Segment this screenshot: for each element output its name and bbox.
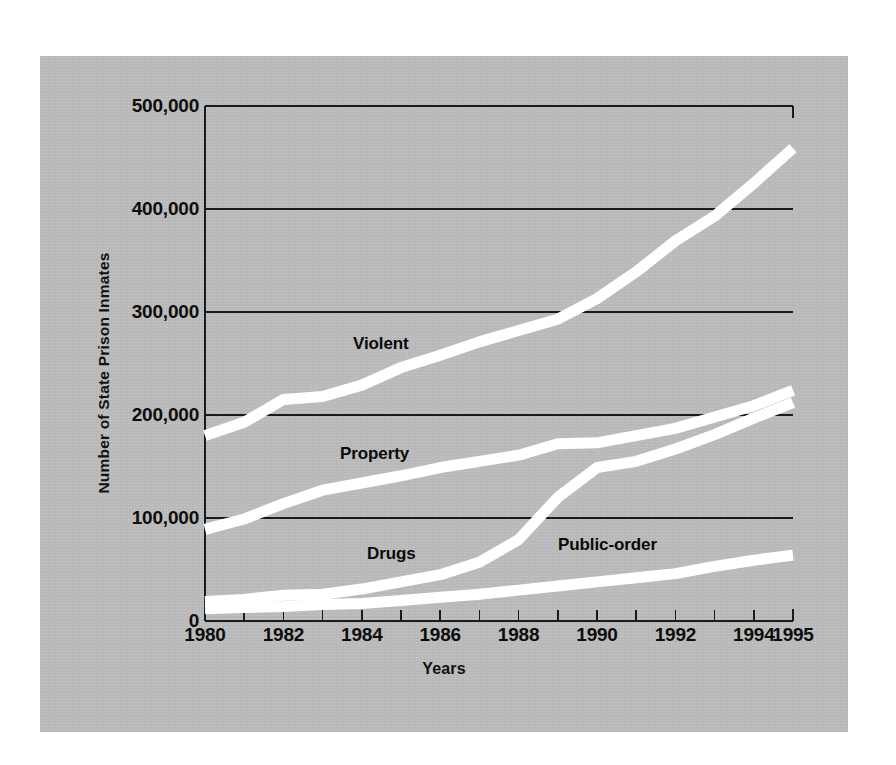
chart-panel: 500,000 400,000 300,000 200,000 100,000 … <box>40 56 848 732</box>
series-label-public-order: Public-order <box>558 535 657 555</box>
x-axis-title: Years <box>40 660 848 678</box>
x-tick-label-1995: 1995 <box>753 625 833 644</box>
x-tick-label-1986: 1986 <box>400 625 480 644</box>
x-tick-label-1980: 1980 <box>165 625 245 644</box>
series-label-violent: Violent <box>353 334 409 354</box>
x-tick-label-1984: 1984 <box>322 625 402 644</box>
x-tick-label-1990: 1990 <box>557 625 637 644</box>
y-axis-title: Number of State Prison Inmates <box>95 243 113 503</box>
x-tick-label-1982: 1982 <box>243 625 323 644</box>
figure-root: 500,000 400,000 300,000 200,000 100,000 … <box>0 0 896 765</box>
series-label-property: Property <box>340 444 409 464</box>
x-axis-tick-labels: 1980 1982 1984 1986 1988 1990 1992 1994 … <box>40 56 848 732</box>
x-tick-label-1992: 1992 <box>635 625 715 644</box>
x-tick-label-1988: 1988 <box>479 625 559 644</box>
series-label-drugs: Drugs <box>367 544 416 564</box>
